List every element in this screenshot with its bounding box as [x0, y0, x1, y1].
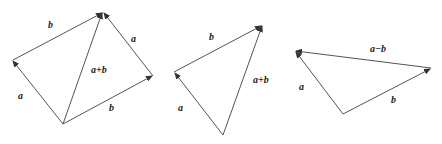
label-a: a — [178, 102, 183, 113]
label-a: a — [299, 81, 304, 92]
label-b-top: b — [48, 19, 53, 30]
label-a-right: a — [131, 33, 136, 44]
figure-triangle-difference: a−b a b — [296, 43, 431, 114]
label-difference: a−b — [370, 43, 386, 54]
vector-b-bottom — [63, 76, 152, 124]
vector-b-top — [13, 13, 102, 60]
label-b: b — [209, 31, 214, 42]
label-b-bottom: b — [109, 102, 114, 113]
vector-a-right — [104, 13, 153, 76]
vector-difference — [296, 51, 431, 68]
label-a-left: a — [18, 90, 23, 101]
vector-diagrams: b a a a+b b b a a+b a−b a b — [0, 0, 442, 144]
label-sum: a+b — [91, 64, 107, 75]
label-sum: a+b — [253, 74, 269, 85]
label-b: b — [391, 94, 396, 105]
figure-parallelogram: b a a a+b b — [13, 13, 153, 124]
figure-triangle-sum: b a a+b — [174, 26, 269, 135]
vector-b — [343, 69, 430, 114]
